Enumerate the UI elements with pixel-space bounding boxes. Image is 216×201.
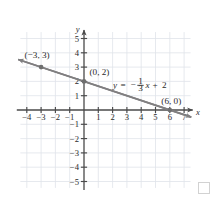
y-axis-label: y bbox=[75, 24, 80, 34]
x-tick-label: −3 bbox=[37, 112, 46, 122]
y-tick-label: 1 bbox=[75, 91, 79, 101]
y-tick-label: 5 bbox=[75, 34, 79, 44]
x-tick-label: 4 bbox=[139, 112, 144, 122]
data-point-marker bbox=[39, 65, 44, 70]
x-axis-tick-labels: −4−3−2−11234567 bbox=[22, 112, 187, 122]
y-tick-label: −3 bbox=[70, 148, 79, 158]
y-tick-label: −5 bbox=[70, 177, 79, 187]
point-annotations: (−3, 3)(0, 2)(6, 0) bbox=[25, 50, 182, 106]
corner-marker-square bbox=[198, 182, 210, 194]
equation-constant: 2 bbox=[162, 80, 167, 90]
equation-plus: + bbox=[152, 80, 157, 90]
y-tick-label: −1 bbox=[70, 119, 79, 129]
y-tick-label: −2 bbox=[70, 134, 79, 144]
equation-equals: = bbox=[120, 80, 125, 90]
x-tick-label: −4 bbox=[22, 112, 32, 122]
x-tick-label: 6 bbox=[168, 112, 173, 122]
x-tick-label: −2 bbox=[51, 112, 60, 122]
point-label-0-2: (0, 2) bbox=[90, 67, 110, 77]
equation-fraction-denominator: 3 bbox=[138, 83, 143, 93]
coordinate-plane-svg: −4−3−2−11234567 54321−1−2−3−4−5 xy (−3, … bbox=[0, 0, 216, 201]
y-tick-label: 3 bbox=[75, 62, 79, 72]
y-tick-label: −4 bbox=[70, 162, 80, 172]
graph-figure: −4−3−2−11234567 54321−1−2−3−4−5 xy (−3, … bbox=[0, 0, 216, 201]
point-label-neg3-3: (−3, 3) bbox=[25, 50, 50, 60]
x-tick-label: 1 bbox=[96, 112, 100, 122]
x-tick-label: 5 bbox=[153, 112, 157, 122]
point-label-6-0: (6, 0) bbox=[161, 96, 181, 106]
x-tick-label: 3 bbox=[125, 112, 129, 122]
equation-sign: − bbox=[130, 80, 135, 90]
data-point-marker bbox=[82, 79, 87, 84]
equation-annotation: y=−13x+2 bbox=[112, 76, 167, 93]
x-axis-label: x bbox=[195, 107, 200, 117]
x-tick-label: 2 bbox=[110, 112, 114, 122]
y-tick-label: 4 bbox=[75, 48, 80, 58]
data-point-marker bbox=[167, 108, 172, 113]
